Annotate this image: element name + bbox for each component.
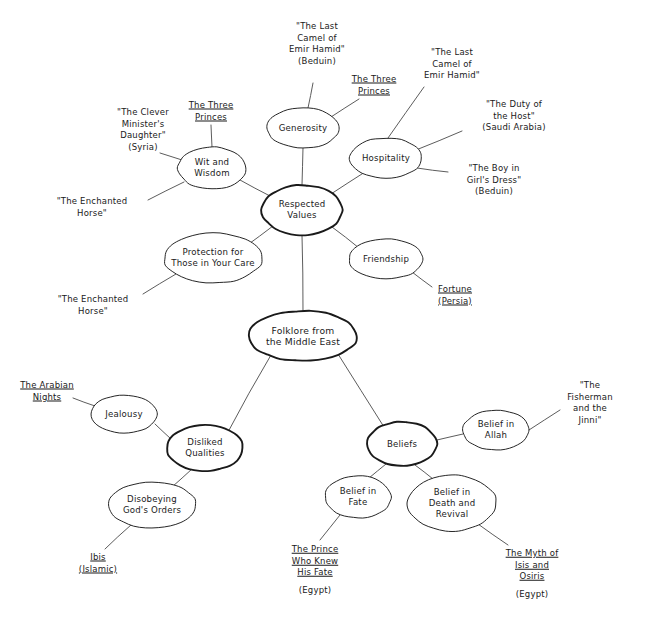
underlined-title: Who Knew [292, 555, 338, 565]
source-reference-line: (Syria) [117, 142, 169, 154]
source-reference-line: "The Enchanted [57, 196, 128, 208]
source-reference-line: The Three [352, 74, 397, 86]
mind-map-node-ellipse[interactable] [349, 239, 422, 279]
mind-map-edge [331, 99, 359, 117]
source-reference-line: Ibis [79, 552, 117, 564]
source-reference-line: "The Enchanted [58, 294, 129, 306]
mind-map-node-ellipse[interactable] [267, 108, 339, 148]
source-reference-line: Fortune [438, 284, 472, 296]
mind-map-node-ellipse[interactable] [367, 422, 437, 466]
source-reference-line: the Host" [482, 110, 545, 122]
source-reference-line: and the [562, 403, 619, 415]
source-reference-line: The Three [189, 100, 234, 112]
mind-map-edge [331, 172, 365, 194]
mind-map-canvas: Folklore from the Middle EastRespected V… [0, 0, 647, 631]
source-reference-label: "The EnchantedHorse" [58, 294, 129, 317]
mind-map-node-ellipse[interactable] [109, 482, 196, 528]
source-reference-label: The ArabianNights [20, 380, 74, 403]
source-reference-line: Minister's [117, 119, 169, 131]
source-reference-line: The Prince [292, 544, 339, 556]
mind-map-edge [308, 83, 313, 108]
underlined-title: The Three [352, 74, 397, 84]
source-reference-label: The Myth ofIsis andOsiris [506, 548, 559, 583]
mind-map-edge [338, 354, 384, 427]
mind-map-node-ellipse[interactable] [91, 395, 157, 433]
underlined-title: The Prince [292, 544, 339, 554]
mind-map-edge [105, 525, 131, 549]
underlined-title: His Fate [297, 567, 332, 577]
underlined-title: The Three [189, 100, 234, 110]
source-reference-label: "The Fishermanand theJinni" [562, 380, 619, 426]
mind-map-edge [143, 274, 176, 294]
mind-map-edge [412, 272, 432, 287]
mind-map-edge [415, 465, 433, 479]
source-reference-label: The ThreePrinces [189, 100, 234, 123]
source-reference-label: Fortune(Persia) [438, 284, 472, 307]
mind-map-edge [417, 168, 448, 172]
source-reference-line: Isis and [506, 559, 559, 571]
source-reference-label: The PrinceWho KnewHis Fate [292, 544, 339, 579]
source-reference-line: (Egypt) [516, 589, 549, 601]
underlined-title: Ibis [90, 552, 106, 562]
source-reference-line: Daughter" [117, 130, 169, 142]
source-reference-line: Princes [189, 111, 234, 123]
source-reference-line: Camel of [424, 58, 480, 70]
underlined-title: (Islamic) [79, 563, 117, 573]
mind-map-node-ellipse[interactable] [407, 475, 496, 532]
source-reference-line: Girl's Dress" [467, 174, 522, 186]
underlined-title: The Myth of [506, 548, 559, 558]
source-reference-line: Who Knew [292, 555, 339, 567]
source-reference-line: "The Boy in [467, 163, 522, 175]
underlined-title: Fortune [438, 284, 472, 294]
mind-map-edge [228, 355, 271, 432]
underlined-title: Osiris [520, 571, 545, 581]
source-reference-label: Ibis(Islamic) [79, 552, 117, 575]
mind-map-node-ellipse[interactable] [165, 233, 262, 283]
source-reference-line: "The Fisherman [562, 380, 619, 403]
mind-map-edge [478, 524, 508, 545]
mind-map-edge [529, 410, 560, 430]
underlined-title: (Persia) [438, 295, 472, 305]
source-reference-line: (Saudi Arabia) [482, 122, 545, 134]
mind-map-node-ellipse[interactable] [167, 425, 242, 471]
source-reference-line: Horse" [58, 305, 129, 317]
mind-map-edge [437, 434, 463, 440]
mind-map-node-ellipse[interactable] [177, 147, 246, 189]
underlined-title: The Arabian [20, 380, 74, 390]
source-reference-line: (Beduin) [467, 186, 522, 198]
mind-map-node-ellipse[interactable] [261, 185, 343, 235]
source-reference-line: "The Clever [117, 107, 169, 119]
source-reference-label: The ThreePrinces [352, 74, 397, 97]
mind-map-node-ellipse[interactable] [463, 410, 529, 450]
mind-map-node-ellipse[interactable] [349, 138, 421, 178]
source-reference-label: "The Duty ofthe Host"(Saudi Arabia) [482, 99, 545, 134]
source-reference-label: "The CleverMinister'sDaughter"(Syria) [117, 107, 169, 153]
underlined-title: Isis and [515, 559, 549, 569]
source-reference-line: The Myth of [506, 548, 559, 560]
source-reference-line: His Fate [292, 567, 339, 579]
source-reference-line: "The Duty of [482, 99, 545, 111]
mind-map-node-ellipse[interactable] [249, 311, 357, 361]
source-reference-label: (Egypt) [516, 589, 549, 601]
mind-map-edge [302, 235, 303, 311]
mind-map-edge [172, 469, 192, 487]
mind-map-edge [320, 515, 340, 540]
mind-map-edge [240, 180, 270, 196]
source-reference-label: "The LastCamel ofEmir Hamid" [424, 47, 480, 82]
mind-map-edge [155, 424, 171, 439]
source-reference-line: Emir Hamid" [424, 70, 480, 82]
source-reference-line: Horse" [57, 207, 128, 219]
source-reference-line: "The Last [424, 47, 480, 59]
mind-map-edge [160, 153, 182, 160]
source-reference-line: Nights [20, 391, 74, 403]
mind-map-edge [369, 464, 386, 478]
source-reference-label: (Egypt) [299, 585, 332, 597]
source-reference-line: Emir Hamid" [289, 44, 345, 56]
mind-map-edge [73, 398, 95, 406]
underlined-title: Princes [195, 111, 227, 121]
mind-map-edge [332, 227, 359, 248]
source-reference-line: Camel of [289, 33, 345, 45]
source-reference-line: Osiris [506, 571, 559, 583]
source-reference-line: Princes [352, 85, 397, 97]
mind-map-node-ellipse[interactable] [325, 476, 391, 518]
